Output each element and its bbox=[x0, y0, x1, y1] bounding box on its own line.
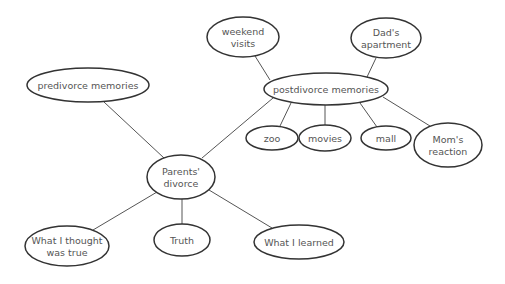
node-predivorce: predivorce memories bbox=[27, 68, 149, 102]
cluster-diagram: Parents'divorcepredivorce memoriespostdi… bbox=[0, 0, 505, 284]
node-label: divorce bbox=[164, 178, 199, 189]
node-label: Truth bbox=[169, 235, 194, 246]
node-parents-divorce: Parents'divorce bbox=[147, 155, 215, 199]
node-label: zoo bbox=[264, 133, 281, 144]
node-zoo: zoo bbox=[246, 126, 298, 150]
node-label: movies bbox=[308, 133, 342, 144]
node-label: predivorce memories bbox=[38, 80, 139, 91]
node-truth: Truth bbox=[154, 224, 210, 256]
node-label: apartment bbox=[361, 39, 411, 50]
node-weekend-visits: weekendvisits bbox=[207, 17, 279, 57]
edge-parents-divorce-to-predivorce bbox=[104, 102, 164, 158]
nodes-layer: Parents'divorcepredivorce memoriespostdi… bbox=[25, 17, 482, 266]
node-label: Parents' bbox=[162, 166, 200, 177]
edge-postdivorce-to-moms-reaction bbox=[383, 97, 430, 126]
edge-postdivorce-to-mall bbox=[360, 103, 377, 127]
node-label: postdivorce memories bbox=[273, 84, 379, 95]
edge-postdivorce-to-zoo bbox=[280, 103, 291, 126]
node-postdivorce: postdivorce memories bbox=[264, 73, 388, 105]
node-moms-reaction: Mom'sreaction bbox=[414, 123, 482, 167]
node-dads-apartment: Dad'sapartment bbox=[351, 18, 421, 58]
node-label: Dad's bbox=[373, 27, 400, 38]
node-label: What I thought bbox=[31, 235, 102, 246]
node-what-i-thought: What I thoughtwas true bbox=[25, 226, 109, 266]
node-label: was true bbox=[46, 247, 87, 258]
node-label: mall bbox=[376, 133, 396, 144]
edge-postdivorce-to-dads-apartment bbox=[367, 58, 376, 77]
node-label: Mom's bbox=[433, 134, 464, 145]
edge-parents-divorce-to-what-i-thought bbox=[93, 192, 157, 230]
node-what-i-learned: What I learned bbox=[254, 225, 344, 259]
node-movies: movies bbox=[299, 125, 351, 151]
node-mall: mall bbox=[361, 126, 411, 150]
node-label: visits bbox=[231, 38, 256, 49]
edge-parents-divorce-to-what-i-learned bbox=[209, 190, 272, 228]
edge-postdivorce-to-weekend-visits bbox=[255, 56, 270, 80]
node-label: What I learned bbox=[264, 237, 334, 248]
node-label: reaction bbox=[429, 146, 468, 157]
node-label: weekend bbox=[222, 26, 265, 37]
